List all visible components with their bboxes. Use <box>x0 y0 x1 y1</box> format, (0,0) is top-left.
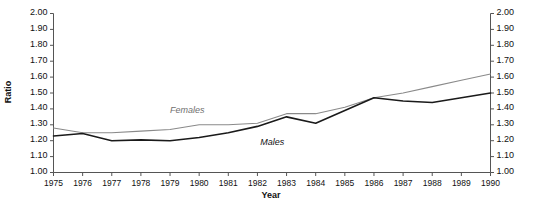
x-tick-label: 1975 <box>38 178 70 188</box>
y-tick-label-left: 1.10 <box>30 150 48 160</box>
x-tick-label: 1984 <box>300 178 332 188</box>
y-tick-label-left: 1.00 <box>30 166 48 176</box>
series-line-females <box>54 74 491 133</box>
y-tick-label-right: 1.30 <box>497 118 515 128</box>
y-tick-label-left: 1.30 <box>30 118 48 128</box>
y-tick-label-right: 1.80 <box>497 39 515 49</box>
y-tick-label-left: 1.60 <box>30 71 48 81</box>
x-tick-label: 1981 <box>212 178 244 188</box>
x-tick-label: 1983 <box>271 178 303 188</box>
x-axis-title: Year <box>0 190 542 200</box>
x-tick-label: 1979 <box>154 178 186 188</box>
y-tick-label-right: 1.40 <box>497 102 515 112</box>
x-tick-label: 1978 <box>125 178 157 188</box>
x-tick-label: 1977 <box>96 178 128 188</box>
y-tick-label-left: 1.80 <box>30 39 48 49</box>
y-axis-title: Ratio <box>3 72 13 112</box>
y-tick-label-right: 1.50 <box>497 87 515 97</box>
x-tick-label: 1985 <box>329 178 361 188</box>
y-tick-label-right: 1.10 <box>497 150 515 160</box>
y-tick-label-left: 1.20 <box>30 134 48 144</box>
x-tick-label: 1976 <box>67 178 99 188</box>
series-line-males <box>54 93 491 141</box>
x-tick-label: 1990 <box>475 178 507 188</box>
x-tick-label: 1987 <box>387 178 419 188</box>
x-tick-label: 1986 <box>358 178 390 188</box>
x-tick-label: 1989 <box>445 178 477 188</box>
series-label-females: Females <box>170 105 205 115</box>
x-tick-label: 1988 <box>416 178 448 188</box>
y-tick-label-right: 1.00 <box>497 166 515 176</box>
chart-figure: 2.002.001.901.901.801.801.701.701.601.60… <box>0 0 542 212</box>
x-tick-label: 1980 <box>183 178 215 188</box>
y-tick-label-left: 1.70 <box>30 55 48 65</box>
y-tick-label-left: 1.90 <box>30 23 48 33</box>
x-tick-label: 1982 <box>241 178 273 188</box>
y-tick-label-right: 1.70 <box>497 55 515 65</box>
y-tick-label-left: 1.50 <box>30 87 48 97</box>
y-tick-label-right: 1.20 <box>497 134 515 144</box>
y-tick-label-right: 1.90 <box>497 23 515 33</box>
series-label-males: Males <box>260 137 284 147</box>
y-tick-label-right: 2.00 <box>497 7 515 17</box>
y-tick-label-left: 2.00 <box>30 7 48 17</box>
y-tick-label-right: 1.60 <box>497 71 515 81</box>
y-tick-label-left: 1.40 <box>30 102 48 112</box>
